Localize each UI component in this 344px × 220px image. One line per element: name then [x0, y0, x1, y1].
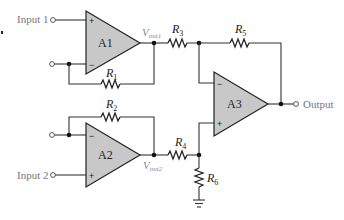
r3-label: R3: [171, 22, 183, 38]
vout1-label: Vout1: [142, 26, 161, 40]
output-terminal[interactable]: [294, 102, 299, 107]
input-2-label: Input 2: [17, 169, 48, 181]
r6-label: R6: [206, 171, 218, 187]
a2-plus-sign: +: [89, 171, 94, 181]
resistor-r5: [230, 39, 249, 47]
input-1-terminal-group: Input 1: [17, 13, 86, 25]
ground-icon: [193, 200, 205, 207]
r1-label: R1: [105, 66, 117, 82]
op-amp-a2: − + A2: [86, 123, 140, 187]
vout2-label: Vout2: [143, 159, 163, 173]
input-2-terminal[interactable]: [51, 173, 56, 178]
a1-plus-sign: +: [89, 16, 94, 26]
input-1-terminal[interactable]: [51, 18, 56, 23]
resistor-r4: [168, 151, 187, 159]
op-amp-a1: + − A1: [86, 11, 140, 74]
input-2-terminal-group: Input 2: [17, 169, 86, 181]
input-1-label: Input 1: [17, 13, 48, 25]
a2-gain-terminal[interactable]: [50, 133, 55, 138]
output-label: Output: [303, 98, 334, 110]
junction-node: [67, 133, 72, 138]
a1-label: A1: [98, 36, 113, 50]
resistor-r2: [101, 113, 120, 121]
op-amp-a3: − + A3: [214, 72, 268, 136]
r5-label: R5: [234, 22, 246, 38]
resistor-r6: [195, 168, 203, 187]
a2-label: A2: [98, 148, 113, 162]
stray-mark: [1, 31, 3, 34]
a3-plus-sign: +: [217, 119, 222, 129]
a1-minus-sign: −: [89, 60, 94, 70]
a2-minus-sign: −: [89, 131, 94, 141]
vout1-node: [152, 41, 157, 46]
resistor-r3: [168, 39, 187, 47]
a3-label: A3: [227, 97, 242, 111]
a1-gain-terminal[interactable]: [50, 62, 55, 67]
vout2-node: [152, 153, 157, 158]
instrumentation-amplifier-diagram: Input 1 + − A1 R1 Vout1 R3 R5 − + A3 Out…: [0, 0, 344, 220]
r4-label: R4: [174, 135, 186, 151]
a3-minus-sign: −: [217, 79, 222, 89]
r2-label: R2: [105, 97, 117, 113]
output-node: [279, 102, 284, 107]
